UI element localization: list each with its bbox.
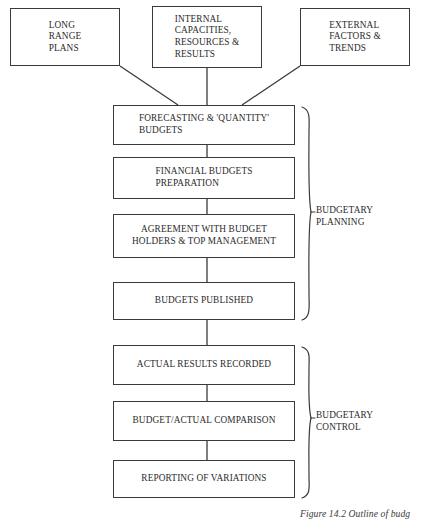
budget-process-diagram: LONG RANGE PLANS INTERNAL CAPACITIES, RE… — [0, 0, 422, 523]
source-box-label: INTERNAL CAPACITIES, RESOURCES & RESULTS — [171, 14, 244, 60]
process-box-label: FINANCIAL BUDGETS PREPARATION — [152, 166, 257, 189]
process-box-agreement: AGREEMENT WITH BUDGET HOLDERS & TOP MANA… — [113, 214, 295, 258]
edge-long-range-to-forecasting — [120, 66, 178, 105]
process-box-actual-results: ACTUAL RESULTS RECORDED — [113, 345, 295, 385]
brace-control-upper — [302, 347, 311, 418]
source-box-long-range-plans: LONG RANGE PLANS — [10, 8, 120, 66]
process-box-label: ACTUAL RESULTS RECORDED — [133, 359, 275, 371]
process-box-label: AGREEMENT WITH BUDGET HOLDERS & TOP MANA… — [128, 224, 280, 247]
source-box-internal-capacities: INTERNAL CAPACITIES, RESOURCES & RESULTS — [152, 6, 262, 68]
brace-control-lower — [302, 418, 311, 498]
process-box-budgets-published: BUDGETS PUBLISHED — [113, 282, 295, 320]
group-label-budgetary-control: BUDGETARY CONTROL — [316, 410, 373, 434]
process-box-label: FORECASTING & 'QUANTITY' BUDGETS — [135, 113, 273, 136]
process-box-financial-budgets: FINANCIAL BUDGETS PREPARATION — [113, 157, 295, 199]
process-box-forecasting: FORECASTING & 'QUANTITY' BUDGETS — [113, 105, 295, 145]
group-label-budgetary-planning: BUDGETARY PLANNING — [316, 205, 373, 229]
process-box-label: BUDGET/ACTUAL COMPARISON — [129, 415, 280, 427]
process-box-label: BUDGETS PUBLISHED — [151, 295, 257, 307]
source-box-label: EXTERNAL FACTORS & TRENDS — [325, 20, 385, 55]
connector-lines — [0, 0, 422, 523]
brace-planning-lower — [302, 212, 311, 320]
edge-external-to-forecasting — [242, 66, 300, 105]
source-box-label: LONG RANGE PLANS — [45, 20, 86, 55]
brace-planning-upper — [302, 107, 311, 212]
figure-caption: Figure 14.2 Outline of budg — [300, 508, 410, 519]
process-box-budget-actual-comparison: BUDGET/ACTUAL COMPARISON — [113, 401, 295, 441]
source-box-external-factors: EXTERNAL FACTORS & TRENDS — [300, 8, 410, 66]
process-box-label: REPORTING OF VARIATIONS — [137, 473, 270, 485]
process-box-reporting-variations: REPORTING OF VARIATIONS — [113, 460, 295, 498]
